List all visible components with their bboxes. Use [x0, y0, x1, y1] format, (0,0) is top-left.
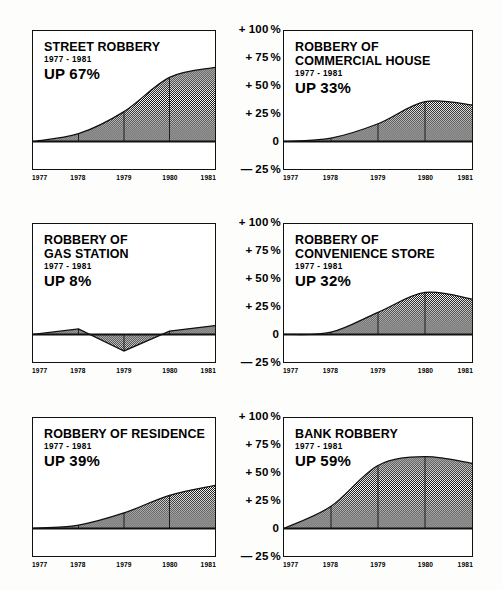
year-axis-gas-station: 19771978197919801981 [32, 367, 216, 379]
year-tick-label: 1977 [32, 561, 47, 568]
chart-row-2: ROBBERY OF GAS STATION 1977 - 1981 UP 8%… [0, 193, 503, 383]
year-tick-label: 1979 [116, 174, 131, 181]
y-axis-tick-label: 0 [219, 329, 281, 341]
y-axis-tick-label: +100% [219, 24, 281, 36]
year-tick-label: 1978 [70, 561, 85, 568]
y-axis-tick-label: —25% [219, 164, 281, 176]
chart-caption-bank-robbery: BANK ROBBERY 1977 - 1981 UP 59% [295, 427, 398, 469]
y-axis-tick-label: +75% [219, 245, 281, 257]
chart-title-residence: ROBBERY OF RESIDENCE [44, 427, 205, 441]
chart-subtitle-bank-robbery: 1977 - 1981 [295, 442, 398, 451]
chart-title-convenience-store: ROBBERY OF CONVENIENCE STORE [295, 233, 435, 261]
y-axis-tick-label: +25% [219, 301, 281, 313]
chart-change-commercial-house: UP 33% [295, 79, 430, 96]
y-axis-tick-label: +50% [219, 273, 281, 285]
chart-title-line: COMMERCIAL HOUSE [295, 54, 430, 68]
chart-row-1: STREET ROBBERY 1977 - 1981 UP 67% 197719… [0, 0, 503, 190]
year-tick-label: 1978 [70, 174, 85, 181]
chart-change-bank-robbery: UP 59% [295, 452, 398, 469]
year-axis-convenience-store: 19771978197919801981 [283, 367, 473, 379]
chart-title-bank-robbery: BANK ROBBERY [295, 427, 398, 441]
chart-subtitle-street-robbery: 1977 - 1981 [44, 55, 160, 64]
chart-row-3: ROBBERY OF RESIDENCE 1977 - 1981 UP 39% … [0, 387, 503, 577]
chart-change-residence: UP 39% [44, 452, 205, 469]
year-tick-label: 1981 [458, 561, 473, 568]
chart-caption-convenience-store: ROBBERY OF CONVENIENCE STORE 1977 - 1981… [295, 233, 435, 289]
year-tick-label: 1978 [323, 174, 338, 181]
chart-panel-bank-robbery[interactable]: BANK ROBBERY 1977 - 1981 UP 59% [283, 417, 473, 557]
chart-title-line: ROBBERY OF [44, 233, 129, 247]
year-tick-label: 1980 [162, 561, 177, 568]
y-axis-tick-label: —25% [219, 551, 281, 563]
chart-title-commercial-house: ROBBERY OF COMMERCIAL HOUSE [295, 40, 430, 68]
year-tick-label: 1980 [162, 174, 177, 181]
chart-title-line: GAS STATION [44, 247, 129, 261]
y-axis-labels-row-2: +100%+75%+50%+25%0—25% [219, 193, 281, 383]
chart-caption-commercial-house: ROBBERY OF COMMERCIAL HOUSE 1977 - 1981 … [295, 40, 430, 96]
year-tick-label: 1980 [418, 561, 433, 568]
year-tick-label: 1977 [283, 367, 298, 374]
year-tick-label: 1981 [458, 367, 473, 374]
year-tick-label: 1979 [370, 367, 385, 374]
y-axis-tick-label: +75% [219, 52, 281, 64]
chart-subtitle-commercial-house: 1977 - 1981 [295, 69, 430, 78]
y-axis-tick-label: 0 [219, 136, 281, 148]
year-axis-residence: 19771978197919801981 [32, 561, 216, 573]
year-tick-label: 1981 [201, 367, 216, 374]
year-tick-label: 1977 [283, 174, 298, 181]
y-axis-tick-label: +50% [219, 467, 281, 479]
chart-title-line: STREET ROBBERY [44, 40, 160, 54]
chart-caption-gas-station: ROBBERY OF GAS STATION 1977 - 1981 UP 8% [44, 233, 129, 289]
year-tick-label: 1979 [116, 561, 131, 568]
year-tick-label: 1979 [370, 561, 385, 568]
chart-caption-street-robbery: STREET ROBBERY 1977 - 1981 UP 67% [44, 40, 160, 82]
chart-caption-residence: ROBBERY OF RESIDENCE 1977 - 1981 UP 39% [44, 427, 205, 469]
chart-change-gas-station: UP 8% [44, 272, 129, 289]
year-tick-label: 1981 [458, 174, 473, 181]
year-tick-label: 1981 [201, 174, 216, 181]
chart-panel-residence[interactable]: ROBBERY OF RESIDENCE 1977 - 1981 UP 39% [32, 417, 216, 557]
year-axis-street-robbery: 19771978197919801981 [32, 174, 216, 186]
chart-panel-commercial-house[interactable]: ROBBERY OF COMMERCIAL HOUSE 1977 - 1981 … [283, 30, 473, 170]
year-tick-label: 1980 [162, 367, 177, 374]
y-axis-tick-label: +50% [219, 80, 281, 92]
year-tick-label: 1981 [201, 561, 216, 568]
chart-title-line: ROBBERY OF [295, 233, 435, 247]
chart-subtitle-residence: 1977 - 1981 [44, 442, 205, 451]
chart-change-convenience-store: UP 32% [295, 272, 435, 289]
y-axis-labels-row-1: +100%+75%+50%+25%0—25% [219, 0, 281, 190]
chart-subtitle-convenience-store: 1977 - 1981 [295, 262, 435, 271]
year-tick-label: 1978 [323, 367, 338, 374]
chart-panel-convenience-store[interactable]: ROBBERY OF CONVENIENCE STORE 1977 - 1981… [283, 223, 473, 363]
chart-subtitle-gas-station: 1977 - 1981 [44, 262, 129, 271]
y-axis-tick-label: +100% [219, 411, 281, 423]
chart-title-line: CONVENIENCE STORE [295, 247, 435, 261]
y-axis-tick-label: —25% [219, 357, 281, 369]
y-axis-tick-label: +75% [219, 439, 281, 451]
chart-panel-street-robbery[interactable]: STREET ROBBERY 1977 - 1981 UP 67% [32, 30, 216, 170]
chart-panel-gas-station[interactable]: ROBBERY OF GAS STATION 1977 - 1981 UP 8% [32, 223, 216, 363]
year-tick-label: 1977 [283, 561, 298, 568]
year-axis-commercial-house: 19771978197919801981 [283, 174, 473, 186]
y-axis-tick-label: +25% [219, 495, 281, 507]
chart-title-line: ROBBERY OF [295, 40, 430, 54]
y-axis-tick-label: +100% [219, 217, 281, 229]
year-axis-bank-robbery: 19771978197919801981 [283, 561, 473, 573]
year-tick-label: 1977 [32, 174, 47, 181]
chart-title-street-robbery: STREET ROBBERY [44, 40, 160, 54]
chart-change-street-robbery: UP 67% [44, 65, 160, 82]
year-tick-label: 1980 [418, 367, 433, 374]
chart-title-line: BANK ROBBERY [295, 427, 398, 441]
y-axis-tick-label: 0 [219, 523, 281, 535]
year-tick-label: 1977 [32, 367, 47, 374]
chart-title-gas-station: ROBBERY OF GAS STATION [44, 233, 129, 261]
chart-title-line: ROBBERY OF RESIDENCE [44, 427, 205, 441]
chart-sheet: STREET ROBBERY 1977 - 1981 UP 67% 197719… [0, 0, 503, 590]
year-tick-label: 1980 [418, 174, 433, 181]
y-axis-tick-label: +25% [219, 108, 281, 120]
year-tick-label: 1979 [116, 367, 131, 374]
y-axis-labels-row-3: +100%+75%+50%+25%0—25% [219, 387, 281, 577]
year-tick-label: 1979 [370, 174, 385, 181]
year-tick-label: 1978 [323, 561, 338, 568]
year-tick-label: 1978 [70, 367, 85, 374]
